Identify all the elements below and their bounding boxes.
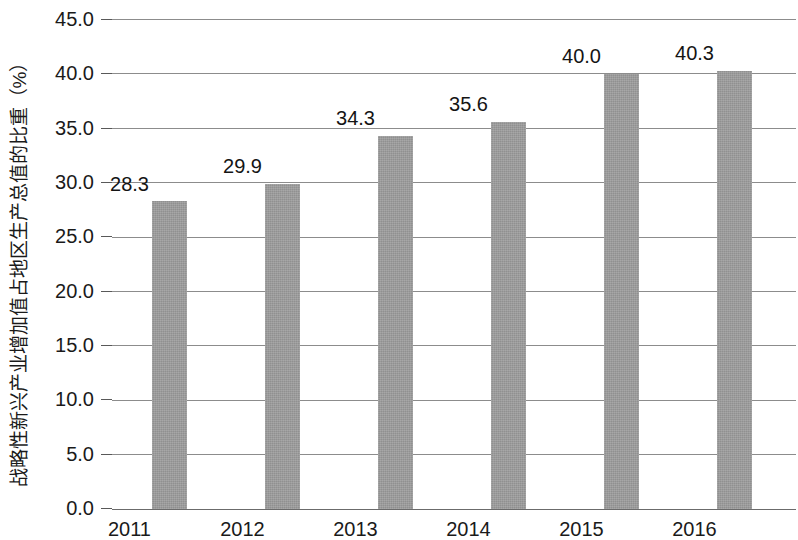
bar-2013[interactable]	[378, 136, 413, 509]
y-tick-mark-15	[101, 345, 112, 346]
y-tick-mark-35	[101, 128, 112, 129]
x-tick-label-2011: 2011	[80, 519, 180, 539]
x-axis-baseline	[112, 509, 796, 510]
gridline-15	[112, 345, 796, 346]
gridline-40	[112, 73, 796, 74]
y-tick-label-5: 5.0	[28, 444, 94, 464]
value-label-2016: 40.3	[650, 43, 740, 63]
y-tick-label-10: 10.0	[28, 389, 94, 409]
y-axis-tick-labels: 45.0 40.0 35.0 30.0 25.0 20.0 15.0 10.0 …	[28, 0, 94, 540]
y-tick-label-45: 45.0	[28, 9, 94, 29]
x-tick-label-2015: 2015	[532, 519, 632, 539]
y-tick-mark-45	[101, 19, 112, 20]
gridline-35	[112, 128, 796, 129]
gridline-25	[112, 237, 796, 238]
bar-chart: 战略性新兴产业增加值占地区生产总值的比重（%） 45.0 40.0 35.0 3…	[0, 0, 798, 540]
gridline-10	[112, 400, 796, 401]
bar-2011[interactable]	[152, 201, 187, 509]
y-tick-mark-5	[101, 454, 112, 455]
value-label-2011: 28.3	[85, 174, 175, 194]
x-tick-label-2013: 2013	[306, 519, 406, 539]
y-tick-label-20: 20.0	[28, 281, 94, 301]
bar-2015[interactable]	[604, 74, 639, 509]
x-tick-label-2014: 2014	[419, 519, 519, 539]
gridline-20	[112, 291, 796, 292]
gridline-45	[112, 19, 796, 20]
bar-2014[interactable]	[491, 122, 526, 509]
y-tick-label-35: 35.0	[28, 118, 94, 138]
bar-2012[interactable]	[265, 184, 300, 509]
bar-2016[interactable]	[717, 71, 752, 509]
x-tick-label-2012: 2012	[193, 519, 293, 539]
y-tick-mark-0	[101, 508, 112, 509]
y-tick-mark-10	[101, 399, 112, 400]
y-tick-mark-20	[101, 291, 112, 292]
y-tick-label-0: 0.0	[28, 498, 94, 518]
y-tick-label-40: 40.0	[28, 63, 94, 83]
gridline-30	[112, 182, 796, 183]
value-label-2015: 40.0	[537, 46, 627, 66]
y-tick-label-15: 15.0	[28, 335, 94, 355]
value-label-2014: 35.6	[424, 94, 514, 114]
gridline-5	[112, 454, 796, 455]
value-label-2012: 29.9	[198, 156, 288, 176]
y-tick-mark-25	[101, 236, 112, 237]
y-tick-label-25: 25.0	[28, 226, 94, 246]
x-tick-label-2016: 2016	[645, 519, 745, 539]
y-tick-mark-40	[101, 73, 112, 74]
value-label-2013: 34.3	[311, 108, 401, 128]
